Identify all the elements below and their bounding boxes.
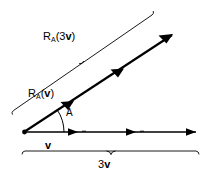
vector-rotation-diagram: RA(3v) RA(v) A v 3v [0, 0, 212, 182]
angle-arc [57, 110, 64, 132]
label-rotated-v-close-paren: ) [50, 87, 54, 99]
horizontal-brace-center-notch [107, 151, 116, 155]
label-rotated-v-subscript: A [36, 93, 41, 100]
horizontal-arrowhead-1 [68, 128, 78, 136]
label-rotated-3v-subscript: A [51, 36, 56, 43]
rotated-bracket-center-notch [79, 61, 84, 64]
horizontal-brace-end-left [22, 151, 25, 154]
label-rotated-v-prefix: R [28, 87, 36, 99]
horizontal-arrowhead-3 [186, 128, 196, 136]
label-rotated-3v-prefix: R [43, 30, 51, 42]
horizontal-measure-brace [22, 151, 199, 155]
rotated-bracket-end-left [12, 111, 14, 115]
rotated-vector-line [24, 35, 172, 132]
label-angle-a: A [66, 108, 73, 118]
label-vector-v: v [45, 140, 51, 151]
horizontal-brace-end-right [196, 151, 199, 154]
label-rotated-3v: RA(3v) [43, 31, 75, 42]
label-vector-3v: 3v [98, 159, 110, 170]
rotated-measure-bracket [12, 11, 154, 115]
label-vector-3v-symbol: v [104, 158, 110, 170]
rotated-bracket-end-right [152, 11, 154, 15]
label-rotated-3v-close-paren: ) [72, 30, 76, 42]
horizontal-vector-group [22, 128, 196, 136]
rotated-vector-group [24, 34, 173, 132]
angle-arc-group [57, 110, 64, 132]
label-rotated-v: RA(v) [28, 88, 54, 99]
horizontal-arrowhead-2 [126, 128, 136, 136]
